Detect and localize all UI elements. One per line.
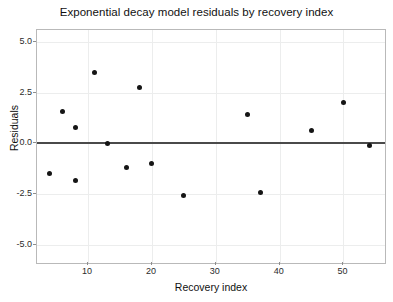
plot-inner: [37, 30, 385, 263]
plot-area: [36, 29, 386, 264]
chart-title: Exponential decay model residuals by rec…: [0, 6, 393, 18]
gridline-vertical: [216, 30, 217, 263]
gridline-vertical: [280, 30, 281, 263]
x-tick-mark: [87, 262, 88, 265]
data-point: [245, 112, 250, 117]
x-axis-label: Recovery index: [36, 281, 386, 293]
x-tick-label: 30: [200, 266, 230, 276]
y-tick-label: -2.5: [0, 188, 32, 198]
residual-scatter-figure: Exponential decay model residuals by rec…: [0, 0, 393, 302]
data-point: [149, 161, 154, 166]
gridline-horizontal: [37, 42, 385, 43]
gridline-horizontal: [37, 194, 385, 195]
y-tick-mark: [33, 92, 36, 93]
data-point: [137, 85, 142, 90]
x-tick-label: 50: [327, 266, 357, 276]
y-tick-mark: [33, 142, 36, 143]
x-tick-mark: [215, 262, 216, 265]
gridline-horizontal: [37, 245, 385, 246]
gridline-vertical: [343, 30, 344, 263]
data-point: [367, 143, 372, 148]
y-tick-label: 5.0: [0, 36, 32, 46]
gridline-vertical: [88, 30, 89, 263]
data-point: [309, 128, 314, 133]
data-point: [181, 193, 186, 198]
x-tick-mark: [151, 262, 152, 265]
x-tick-label: 10: [72, 266, 102, 276]
gridline-horizontal: [37, 93, 385, 94]
data-point: [60, 109, 65, 114]
data-point: [47, 171, 52, 176]
x-tick-label: 40: [264, 266, 294, 276]
y-tick-mark: [33, 193, 36, 194]
data-point: [105, 141, 110, 146]
x-tick-mark: [279, 262, 280, 265]
zero-reference-line: [37, 142, 385, 144]
x-tick-mark: [342, 262, 343, 265]
gridline-vertical: [152, 30, 153, 263]
y-axis-label: Residuals: [8, 78, 20, 178]
data-point: [258, 190, 263, 195]
y-tick-label: -5.0: [0, 239, 32, 249]
y-tick-mark: [33, 41, 36, 42]
data-point: [124, 165, 129, 170]
data-point: [73, 178, 78, 183]
data-point: [92, 70, 97, 75]
data-point: [73, 125, 78, 130]
y-tick-mark: [33, 244, 36, 245]
data-point: [341, 100, 346, 105]
x-tick-label: 20: [136, 266, 166, 276]
